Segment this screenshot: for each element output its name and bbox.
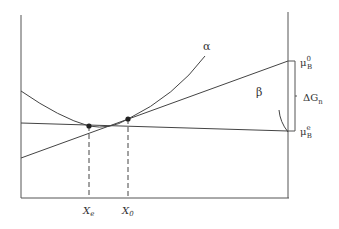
xe-label: Xe bbox=[82, 205, 94, 218]
mu-b-e-label: μeB bbox=[300, 124, 312, 140]
tangent-line-x0 bbox=[21, 61, 288, 158]
tangent-line-xe bbox=[21, 123, 288, 131]
free-energy-diagram: α β μ0B ΔGn μeB Xe X0 bbox=[0, 0, 339, 229]
beta-label: β bbox=[256, 86, 262, 99]
delta-g-bracket bbox=[288, 61, 297, 131]
delta-g-label: ΔGn bbox=[303, 92, 323, 106]
alpha-curve bbox=[21, 56, 205, 127]
beta-curve bbox=[279, 110, 288, 132]
x0-label: X0 bbox=[121, 205, 134, 218]
alpha-label: α bbox=[203, 40, 211, 53]
point-xe bbox=[86, 123, 91, 128]
point-x0 bbox=[125, 116, 130, 121]
mu-b-zero-label: μ0B bbox=[300, 55, 312, 71]
